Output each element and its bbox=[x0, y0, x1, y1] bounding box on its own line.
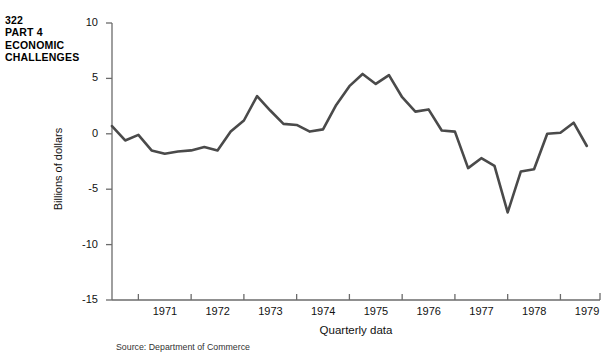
y-axis-ticks bbox=[106, 23, 112, 300]
y-axis-tick-label: 5 bbox=[64, 71, 98, 83]
line-chart-figure: 1050-5-10-15 197119721973197419751976197… bbox=[0, 0, 611, 364]
x-axis-tick-label: 1973 bbox=[243, 305, 297, 317]
data-series-line bbox=[112, 74, 587, 213]
x-axis-tick-label: 1974 bbox=[296, 305, 350, 317]
y-axis-tick-label: 10 bbox=[64, 16, 98, 28]
x-axis-tick-label: 1976 bbox=[402, 305, 456, 317]
source-note: Source: Department of Commerce bbox=[116, 342, 250, 352]
y-axis-tick-label: -15 bbox=[64, 293, 98, 305]
x-axis-tick-label: 1971 bbox=[138, 305, 192, 317]
x-axis-title: Quarterly data bbox=[112, 324, 600, 336]
y-axis-title: Billions of dollars bbox=[52, 0, 64, 104]
x-axis-ticks bbox=[138, 294, 560, 300]
y-axis-title-text: Billions of dollars bbox=[52, 104, 64, 234]
y-axis-tick-label: -5 bbox=[64, 182, 98, 194]
y-axis-tick-label: 0 bbox=[64, 127, 98, 139]
x-axis-tick-label: 1977 bbox=[455, 305, 509, 317]
x-axis-tick-label: 1978 bbox=[507, 305, 561, 317]
x-axis-tick-label: 1972 bbox=[191, 305, 245, 317]
y-axis-tick-label: -10 bbox=[64, 238, 98, 250]
x-axis-tick-label: 1979 bbox=[560, 305, 611, 317]
x-axis-tick-label: 1975 bbox=[349, 305, 403, 317]
